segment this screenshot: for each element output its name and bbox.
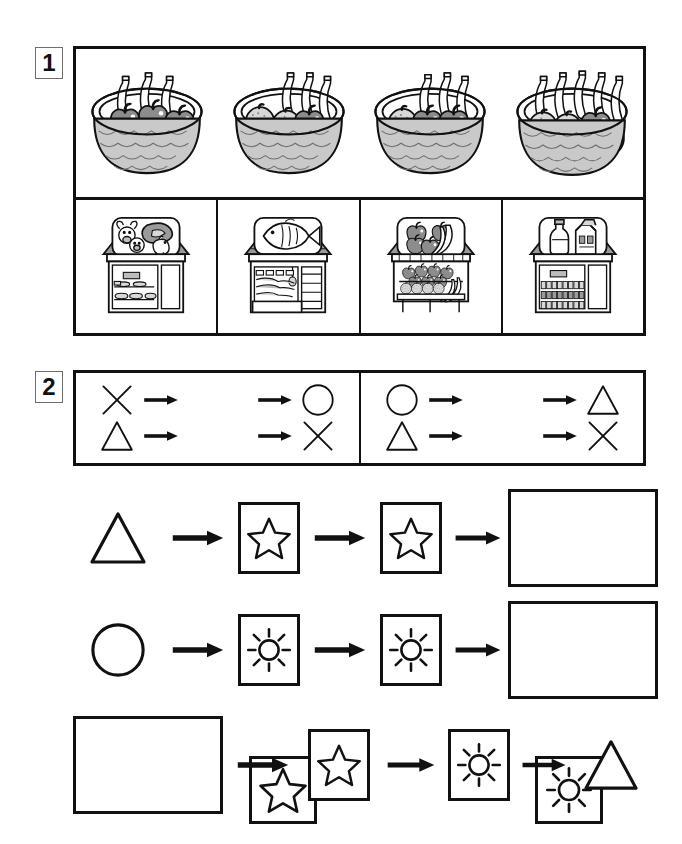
shop-row bbox=[76, 200, 643, 334]
fruit-basket-icon bbox=[506, 61, 638, 185]
rule-star-row-2 bbox=[94, 419, 340, 453]
shop-fishmonger bbox=[218, 200, 360, 334]
exercise-1-badge: 1 bbox=[35, 47, 63, 79]
dairy-shop-icon bbox=[514, 208, 632, 324]
task-1-answer[interactable] bbox=[508, 489, 658, 587]
shop-dairy bbox=[503, 200, 643, 334]
exercise-1-panel bbox=[73, 46, 646, 336]
task-3-output-triangle bbox=[575, 738, 647, 792]
empty-answer-box[interactable] bbox=[508, 601, 658, 699]
star-machine-icon bbox=[308, 729, 370, 801]
rule-group-star bbox=[76, 373, 361, 463]
rule-sun-row-1 bbox=[379, 383, 625, 417]
arrow-right-icon bbox=[539, 429, 581, 443]
rule-sun-rows bbox=[379, 383, 625, 453]
arrow-right-icon bbox=[225, 756, 301, 774]
triangle-icon bbox=[379, 420, 425, 452]
fruit-basket-icon bbox=[364, 61, 496, 185]
task-2-input-circle bbox=[73, 621, 164, 679]
task-2-machine-sun-1 bbox=[231, 614, 306, 686]
greengrocer-shop-icon bbox=[372, 208, 490, 324]
triangle-icon bbox=[581, 384, 625, 416]
task-2-answer[interactable] bbox=[508, 601, 658, 699]
arrow-right-icon bbox=[164, 529, 231, 547]
cross-icon bbox=[581, 419, 625, 453]
rule-sun-row-2 bbox=[379, 419, 625, 453]
rule-group-sun bbox=[361, 373, 644, 463]
basket-3 bbox=[360, 49, 502, 197]
arrow-right-icon bbox=[425, 393, 467, 407]
task-1-machine-star-2 bbox=[374, 502, 449, 574]
fruit-basket-icon bbox=[81, 61, 213, 185]
basket-4 bbox=[501, 49, 643, 197]
star-machine-icon bbox=[380, 502, 442, 574]
sun-machine-icon bbox=[448, 729, 510, 801]
task-2-machine-sun-2 bbox=[374, 614, 449, 686]
arrow-right-icon bbox=[513, 756, 575, 774]
cross-icon bbox=[94, 383, 140, 417]
machine-rules-key bbox=[73, 370, 646, 466]
arrow-right-icon bbox=[140, 429, 182, 443]
fish-shop-icon bbox=[229, 208, 347, 324]
arrow-right-icon bbox=[164, 641, 231, 659]
task-3-machine-star bbox=[301, 729, 377, 801]
rule-star-rows bbox=[94, 383, 340, 453]
arrow-right-icon bbox=[539, 393, 581, 407]
star-machine-icon bbox=[238, 502, 300, 574]
arrow-right-icon bbox=[425, 429, 467, 443]
fruit-basket-icon bbox=[223, 61, 355, 185]
basket-1 bbox=[76, 49, 218, 197]
empty-answer-box[interactable] bbox=[73, 716, 223, 814]
basket-row bbox=[76, 49, 643, 197]
task-row-1 bbox=[73, 488, 658, 588]
sun-machine-icon bbox=[380, 614, 442, 686]
task-row-3 bbox=[73, 712, 658, 817]
arrow-right-icon bbox=[377, 756, 445, 774]
task-1-input-triangle bbox=[73, 510, 164, 566]
triangle-icon bbox=[94, 420, 140, 452]
circle-icon bbox=[379, 383, 425, 417]
arrow-right-icon bbox=[449, 641, 508, 659]
task-3-answer[interactable] bbox=[73, 716, 225, 814]
arrow-right-icon bbox=[306, 529, 373, 547]
arrow-right-icon bbox=[140, 393, 182, 407]
task-1-machine-star-1 bbox=[231, 502, 306, 574]
arrow-right-icon bbox=[254, 429, 296, 443]
rule-star-row-1 bbox=[94, 383, 340, 417]
sun-machine-icon bbox=[238, 614, 300, 686]
arrow-right-icon bbox=[449, 529, 508, 547]
exercise-2-badge: 2 bbox=[35, 371, 63, 403]
butcher-shop-icon bbox=[87, 208, 205, 324]
shop-greengrocer bbox=[361, 200, 503, 334]
circle-icon bbox=[296, 383, 340, 417]
task-row-2 bbox=[73, 600, 658, 700]
arrow-right-icon bbox=[306, 641, 373, 659]
shop-butcher bbox=[76, 200, 218, 334]
cross-icon bbox=[296, 419, 340, 453]
basket-2 bbox=[218, 49, 360, 197]
empty-answer-box[interactable] bbox=[508, 489, 658, 587]
task-3-machine-sun bbox=[445, 729, 513, 801]
arrow-right-icon bbox=[254, 393, 296, 407]
